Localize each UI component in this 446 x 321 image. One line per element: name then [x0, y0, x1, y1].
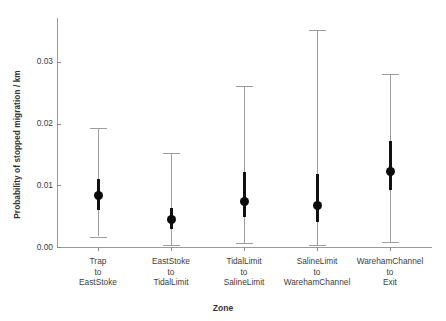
y-axis-tick-label: 0.00 — [13, 243, 53, 251]
error-bar-cap-lower — [382, 242, 399, 243]
data-point-marker — [313, 201, 322, 210]
error-bar-cap-upper — [382, 74, 399, 75]
error-bar-cap-upper — [90, 128, 107, 129]
error-bar-cap-lower — [309, 245, 326, 246]
inner-interval-bar — [389, 141, 392, 190]
x-axis-tick — [244, 247, 245, 251]
error-bar-whisker — [171, 153, 172, 245]
y-axis-tick-label: 0.02 — [13, 119, 53, 127]
error-bar-cap-lower — [163, 245, 180, 246]
x-axis-tick-label-line: to — [347, 267, 433, 278]
y-axis-title: Probability of stopped migration / km — [13, 45, 22, 245]
error-bar-cap-upper — [236, 86, 253, 87]
y-axis-tick — [57, 185, 61, 186]
y-axis-line — [57, 18, 58, 248]
error-bar-cap-upper — [163, 153, 180, 154]
x-axis-tick-label-line: Exit — [347, 277, 433, 288]
x-axis-tick-label-line: WarehamChannel — [347, 256, 433, 267]
probability-of-stopped-migration-chart: Probability of stopped migration / km 0.… — [0, 0, 446, 321]
x-axis-tick — [171, 247, 172, 251]
x-axis-tick — [98, 247, 99, 251]
y-axis-tick — [57, 247, 61, 248]
error-bar-whisker — [244, 86, 245, 243]
y-axis-tick-label: 0.03 — [13, 57, 53, 65]
error-bar-cap-lower — [90, 237, 107, 238]
inner-interval-bar — [243, 172, 246, 218]
y-axis-tick — [57, 124, 61, 125]
inner-interval-bar — [316, 174, 319, 222]
data-point-marker — [386, 167, 395, 176]
y-axis-tick-label: 0.01 — [13, 181, 53, 189]
error-bar-cap-upper — [309, 30, 326, 31]
data-point-marker — [167, 215, 176, 224]
x-axis-tick — [390, 247, 391, 251]
x-axis-tick — [317, 247, 318, 251]
data-point-marker — [240, 197, 249, 206]
data-point-marker — [94, 191, 103, 200]
error-bar-cap-lower — [236, 243, 253, 244]
x-axis-title: Zone — [0, 303, 446, 313]
x-axis-tick-label: WarehamChanneltoExit — [347, 256, 433, 288]
y-axis-tick — [57, 62, 61, 63]
